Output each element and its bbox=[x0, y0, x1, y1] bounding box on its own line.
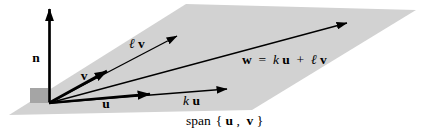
label-v: v bbox=[81, 68, 88, 83]
label-lv: ℓ v bbox=[129, 36, 145, 51]
label-span-caption: span { u , v } bbox=[186, 113, 263, 128]
span-diagram-svg: n v u ℓ v k u w = k u + ℓ v span { bbox=[0, 0, 435, 136]
label-ku: k u bbox=[183, 93, 200, 108]
label-u: u bbox=[102, 96, 110, 111]
label-n: n bbox=[32, 50, 40, 65]
figure-canvas: n v u ℓ v k u w = k u + ℓ v span { bbox=[0, 0, 435, 136]
label-w-equation: w = k u + ℓ v bbox=[242, 52, 327, 67]
origin-corner-marker bbox=[30, 88, 48, 103]
